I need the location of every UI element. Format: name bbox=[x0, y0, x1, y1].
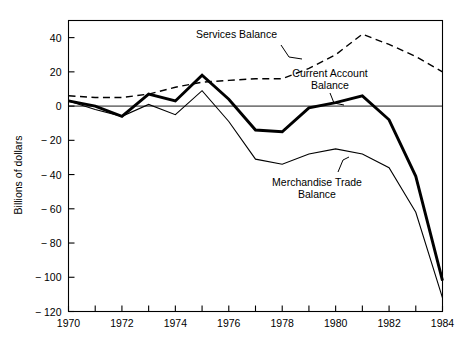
x-tick-label: 1970 bbox=[57, 317, 81, 329]
y-tick-label: − 100 bbox=[35, 271, 62, 283]
y-tick-label: 40 bbox=[50, 32, 62, 44]
y-tick-label: − 60 bbox=[41, 203, 62, 215]
y-axis-title: Billions of dollars bbox=[12, 136, 24, 215]
x-tick-label: 1980 bbox=[324, 317, 348, 329]
x-tick-label: 1982 bbox=[377, 317, 401, 329]
balance-of-payments-line-chart: 40200− 20− 40− 60− 80− 100− 120 19701972… bbox=[0, 0, 468, 345]
annotation-services-balance: Services Balance bbox=[196, 28, 277, 40]
annotation-current-account-balance-line2: Balance bbox=[311, 79, 349, 91]
annotation-merchandise-trade-balance-line1: Merchandise Trade bbox=[272, 176, 362, 188]
annotation-current-account-balance-line1: Current Account bbox=[292, 67, 367, 79]
chart-container: 40200− 20− 40− 60− 80− 100− 120 19701972… bbox=[0, 0, 468, 345]
chart-background bbox=[0, 0, 468, 345]
annotation-merchandise-trade-balance-line2: Balance bbox=[298, 188, 336, 200]
x-tick-label: 1984 bbox=[431, 317, 455, 329]
y-tick-label: − 40 bbox=[41, 169, 62, 181]
x-tick-label: 1974 bbox=[164, 317, 188, 329]
y-tick-label: 20 bbox=[50, 66, 62, 78]
x-tick-label: 1972 bbox=[110, 317, 134, 329]
y-tick-label: − 20 bbox=[41, 134, 62, 146]
y-tick-label: 0 bbox=[56, 100, 62, 112]
y-tick-label: − 80 bbox=[41, 237, 62, 249]
x-tick-label: 1978 bbox=[271, 317, 295, 329]
x-tick-label: 1976 bbox=[217, 317, 241, 329]
